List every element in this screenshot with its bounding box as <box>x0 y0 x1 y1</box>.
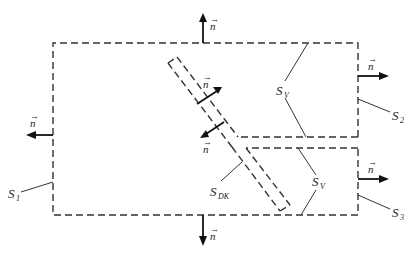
label-s1: S 1 <box>8 186 20 203</box>
svg-text:S: S <box>392 205 399 220</box>
svg-text:V: V <box>284 91 290 100</box>
channel-lower-wall <box>232 147 280 211</box>
normal-arrow-right-upper: n → <box>358 54 389 80</box>
channel-lower-wall-upper-part <box>168 63 232 147</box>
label-sv-upper: S V <box>276 83 290 100</box>
svg-text:S: S <box>8 186 15 201</box>
label-sv-lower: S V <box>312 174 326 191</box>
label-s3: S 3 <box>392 205 404 222</box>
svg-text:V: V <box>320 182 326 191</box>
vector-arrow-icon: → <box>368 157 377 167</box>
svg-text:2: 2 <box>400 116 404 125</box>
normal-arrow-left: n → <box>26 111 53 139</box>
slanted-channel <box>168 57 290 211</box>
svg-text:S: S <box>312 174 319 189</box>
control-volume-diagram: n → n → n → n → n → <box>0 0 415 259</box>
vector-arrow-icon: → <box>203 72 212 82</box>
control-volume-boundary <box>53 43 358 215</box>
normal-arrow-top: n → <box>199 13 219 43</box>
normal-arrow-right-lower: n → <box>358 157 389 183</box>
vector-arrow-icon: → <box>210 14 219 24</box>
svg-text:1: 1 <box>16 194 20 203</box>
svg-text:S: S <box>276 83 283 98</box>
channel-upper-wall-lower-part <box>246 148 290 205</box>
svg-text:3: 3 <box>399 213 404 222</box>
vector-arrow-icon: → <box>368 54 377 64</box>
svg-text:S: S <box>392 108 399 123</box>
svg-text:S: S <box>210 184 217 199</box>
svg-text:DK: DK <box>217 192 230 201</box>
label-s2: S 2 <box>392 108 404 125</box>
normal-arrow-bottom: n → <box>199 215 219 246</box>
channel-top-cap <box>168 57 177 63</box>
vector-arrow-icon: → <box>203 137 212 147</box>
channel-bottom-cap <box>280 205 290 211</box>
normal-vectors: n → n → n → n → n → <box>26 13 389 246</box>
vector-arrow-icon: → <box>30 111 39 121</box>
normal-arrow-channel-lower: n → <box>200 122 224 155</box>
boundary-top-left-bottom <box>53 43 358 215</box>
vector-arrow-icon: → <box>210 224 219 234</box>
label-sdk: S DK <box>210 184 230 201</box>
